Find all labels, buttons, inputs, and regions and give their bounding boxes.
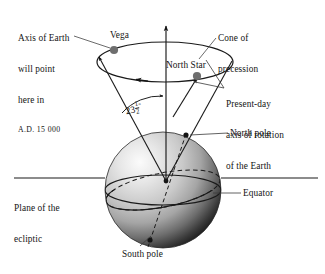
label-ecliptic-line2: ecliptic xyxy=(14,234,60,244)
label-vega: Vega xyxy=(110,30,129,40)
tilt-angle-degree-sign: ° xyxy=(138,101,142,108)
label-present-day-line3: of the Earth xyxy=(226,161,284,171)
present-day-axis-arrow xyxy=(173,78,197,117)
label-axis-future-line1: Axis of Earth xyxy=(18,33,69,43)
label-axis-future-line3: here in xyxy=(18,95,69,105)
vega-star-dot xyxy=(110,46,118,54)
label-north-star: North Star xyxy=(166,60,206,70)
label-plane-of-ecliptic: Plane of the ecliptic xyxy=(14,182,60,265)
tilt-angle-denominator: 2 xyxy=(135,108,140,115)
earth-sphere xyxy=(105,132,221,248)
leader-north-pole xyxy=(190,133,228,135)
label-south-pole: South pole xyxy=(122,249,163,259)
label-axis-future-line2: will point xyxy=(18,64,69,74)
precession-diagram: Axis of Earth will point here in A.D. 15… xyxy=(0,0,325,274)
label-ecliptic-line1: Plane of the xyxy=(14,203,60,213)
label-axis-future-line4: A.D. 15 000 xyxy=(18,126,69,135)
label-cone-line1: Cone of xyxy=(218,33,258,43)
north-pole-dot xyxy=(183,132,188,137)
label-cone-line2: precession xyxy=(218,64,258,74)
label-equator: Equator xyxy=(243,188,273,198)
label-north-pole: North pole xyxy=(230,128,271,138)
leader-axis-future xyxy=(74,36,110,48)
label-axis-future: Axis of Earth will point here in A.D. 15… xyxy=(18,12,69,156)
north-star-dot xyxy=(193,72,201,80)
label-present-day-line1: Present-day xyxy=(226,99,284,109)
